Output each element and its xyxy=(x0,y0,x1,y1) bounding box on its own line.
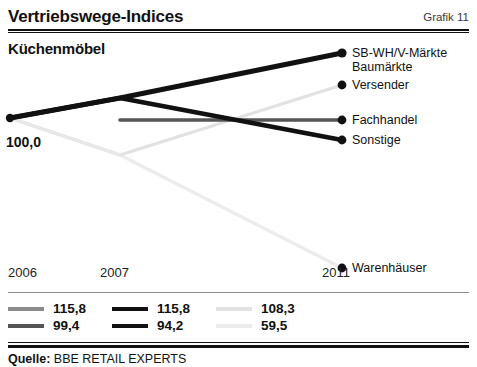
legend-swatch-icon xyxy=(112,324,148,328)
chart-page: Vertriebswege-Indices Grafik 11 Küchenmö… xyxy=(0,0,477,367)
figure-label: Grafik 11 xyxy=(423,10,469,26)
footer-rule-thin xyxy=(8,342,469,343)
legend-value: 115,8 xyxy=(157,301,190,317)
x-axis-rule xyxy=(8,292,469,293)
legend-swatch-icon xyxy=(216,324,252,328)
source-name: BBE RETAIL EXPERTS xyxy=(54,352,186,366)
legend-item-108-3: 108,3 xyxy=(216,301,326,317)
legend-swatch-icon xyxy=(8,307,44,311)
endpoint-marker-sb-wh-baumaerkte xyxy=(337,48,346,57)
series-label-sonstige: Sonstige xyxy=(352,133,401,147)
origin-point-marker xyxy=(6,114,14,122)
footer-rule-thick xyxy=(8,345,469,348)
legend-swatch-icon xyxy=(112,307,148,311)
legend-value: 94,2 xyxy=(157,318,183,334)
series-line-warenhaeuser xyxy=(10,118,342,268)
series-label-sb-wh-line2: Baumärkte xyxy=(352,60,447,74)
source-line: Quelle: BBE RETAIL EXPERTS xyxy=(8,352,186,367)
series-label-sb-wh-line1: SB-WH/V-Märkte xyxy=(352,46,447,60)
header-rule-thick xyxy=(8,29,469,31)
header: Vertriebswege-Indices Grafik 11 xyxy=(8,0,469,26)
xtick-2011: 2011 xyxy=(322,265,350,280)
legend-row: 99,4 94,2 59,5 xyxy=(8,317,469,334)
legend-row: 115,8 115,8 108,3 xyxy=(8,300,469,317)
page-title: Vertriebswege-Indices xyxy=(8,7,183,26)
source-prefix: Quelle: xyxy=(8,352,50,366)
legend-swatch-icon xyxy=(8,324,44,328)
base-value-label: 100,0 xyxy=(6,134,41,150)
series-label-sb-wh-baumaerkte: SB-WH/V-Märkte Baumärkte xyxy=(352,46,447,74)
legend-value: 59,5 xyxy=(261,318,287,334)
series-label-fachhandel: Fachhandel xyxy=(352,113,417,127)
endpoint-marker-sonstige xyxy=(338,136,347,145)
endpoint-marker-versender xyxy=(338,81,347,90)
legend: 115,8 115,8 108,3 99,4 94,2 59,5 xyxy=(8,300,469,334)
legend-item-115-8-gray: 115,8 xyxy=(8,301,112,317)
legend-item-115-8-black: 115,8 xyxy=(112,301,216,317)
header-rule-thin xyxy=(8,32,469,33)
xtick-2007: 2007 xyxy=(100,265,129,280)
legend-value: 99,4 xyxy=(53,318,79,334)
legend-value: 115,8 xyxy=(53,301,86,317)
legend-item-94-2: 94,2 xyxy=(112,318,216,334)
series-label-versender: Versender xyxy=(352,78,409,92)
legend-value: 108,3 xyxy=(261,301,295,317)
plot-area: 100,0 SB-WH/V-Märkte Baumärkte Versender… xyxy=(0,40,477,290)
x-axis: 2006 2007 2011 xyxy=(0,265,477,287)
legend-item-59-5: 59,5 xyxy=(216,318,326,334)
legend-item-99-4: 99,4 xyxy=(8,318,112,334)
legend-swatch-icon xyxy=(216,307,252,311)
xtick-2006: 2006 xyxy=(8,265,37,280)
endpoint-marker-fachhandel xyxy=(338,116,347,125)
